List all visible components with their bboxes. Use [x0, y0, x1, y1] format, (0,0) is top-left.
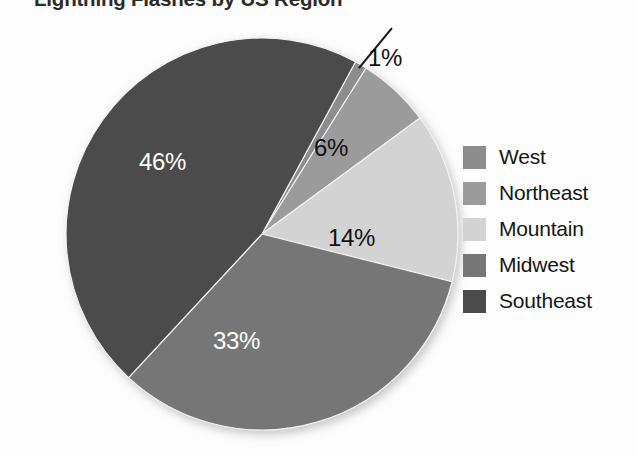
legend-item-northeast[interactable]: Northeast: [463, 175, 635, 211]
slice-label-mountain: 14%: [328, 224, 375, 252]
legend-item-mountain[interactable]: Mountain: [463, 211, 635, 247]
legend-item-west[interactable]: West: [463, 139, 635, 175]
slice-label-southeast: 46%: [139, 148, 186, 176]
legend-item-southeast[interactable]: Southeast: [463, 283, 635, 319]
pie-chart: 1% 6% 14% 33% 46%: [0, 0, 470, 456]
legend-swatch-west: [463, 146, 486, 169]
pie-chart-figure: Lightning Flashes by US Region 1% 6% 14%…: [0, 0, 638, 456]
legend: WestNortheastMountainMidwestSoutheast: [463, 139, 635, 319]
legend-label: Northeast: [499, 181, 588, 205]
legend-swatch-midwest: [463, 254, 486, 277]
slice-label-northeast: 6%: [314, 134, 348, 162]
legend-swatch-southeast: [463, 290, 486, 313]
legend-label: Midwest: [499, 253, 575, 277]
legend-swatch-mountain: [463, 218, 486, 241]
legend-item-midwest[interactable]: Midwest: [463, 247, 635, 283]
legend-label: Mountain: [499, 217, 584, 241]
slice-label-midwest: 33%: [213, 327, 260, 355]
legend-label: Southeast: [499, 289, 592, 313]
legend-swatch-northeast: [463, 182, 486, 205]
pie-slices-group: [66, 38, 458, 430]
slice-label-west: 1%: [368, 44, 402, 72]
legend-label: West: [499, 145, 546, 169]
